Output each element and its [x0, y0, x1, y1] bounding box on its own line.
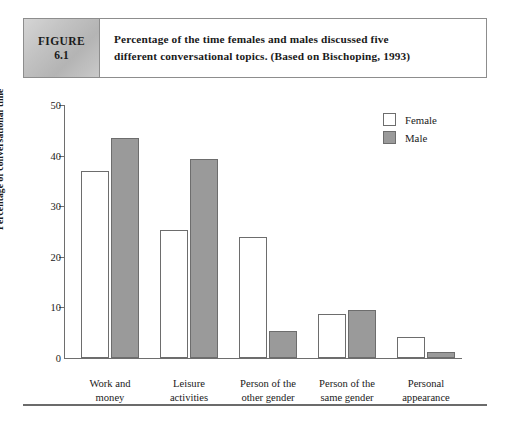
y-tick-label-20: 20 [51, 251, 62, 262]
bar-male-person-other-gender[interactable] [269, 331, 297, 358]
bar-group-person-other-gender [239, 105, 297, 358]
plot-area: 50 40 30 20 10 0 Female [64, 105, 462, 358]
bar-male-work-and-money[interactable] [111, 138, 139, 358]
figure-number-box: FIGURE 6.1 [24, 19, 100, 77]
figure-number: 6.1 [54, 48, 68, 62]
y-tick-label-40: 40 [51, 150, 62, 161]
figure-caption-text: Percentage of the time females and males… [100, 19, 486, 77]
bar-group-leisure-activities [160, 105, 218, 358]
legend-swatch-male-icon [383, 131, 396, 144]
figure-caption-bar: FIGURE 6.1 Percentage of the time female… [23, 18, 487, 78]
y-tick-label-50: 50 [51, 100, 62, 111]
y-tick-label-0: 0 [56, 353, 61, 364]
caption-line-2: different conversational topics. (Based … [114, 48, 474, 65]
y-tick-label-30: 30 [51, 201, 62, 212]
caption-line-1: Percentage of the time females and males… [114, 31, 474, 48]
x-axis-line [64, 358, 462, 359]
bar-chart: Percentage of conversational time 50 40 … [0, 92, 512, 392]
bar-female-person-other-gender[interactable] [239, 237, 267, 358]
legend-swatch-female-icon [383, 113, 396, 126]
bar-female-leisure-activities[interactable] [160, 230, 188, 358]
x-label-line-2: appearance [374, 391, 478, 405]
bar-group-work-and-money [81, 105, 139, 358]
y-axis-title: Percentage of conversational time [0, 89, 5, 230]
bottom-divider [23, 404, 487, 406]
x-label-line-1: Personal [374, 377, 478, 391]
bar-female-personal-appearance[interactable] [397, 337, 425, 358]
bar-male-person-same-gender[interactable] [348, 310, 376, 358]
bar-female-person-same-gender[interactable] [318, 314, 346, 358]
bar-female-work-and-money[interactable] [81, 171, 109, 358]
figure-label: FIGURE [38, 34, 85, 48]
bar-group-personal-appearance [397, 105, 455, 358]
bar-group-person-same-gender [318, 105, 376, 358]
bar-male-leisure-activities[interactable] [190, 159, 218, 358]
y-tick-label-10: 10 [51, 302, 62, 313]
x-axis-label-personal-appearance: Personal appearance [374, 377, 478, 404]
